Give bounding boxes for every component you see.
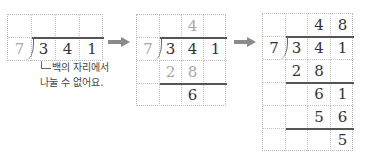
step3-partial-digit: 6 [308, 83, 331, 106]
step3-quotient-digit: 4 [308, 14, 331, 37]
step3-cell [331, 60, 354, 83]
step2-cell [204, 15, 227, 38]
step2-remainder-digit: 6 [182, 84, 204, 106]
right-arrow-icon [108, 37, 130, 47]
step3-cell [286, 83, 308, 106]
step3-cell [286, 14, 308, 37]
step2-cell [204, 61, 227, 84]
right-arrow-icon [234, 37, 256, 47]
step2-cell [137, 84, 160, 106]
step3-cell [308, 129, 331, 151]
annotation-line1: 백의 자리에서 [52, 61, 109, 75]
step3-product-digit: 2 [286, 60, 308, 83]
step1-cell [8, 15, 32, 38]
step2-cell [160, 84, 182, 106]
step2-dividend-digit: 4 [182, 38, 204, 61]
step3-product-digit: 6 [331, 106, 354, 129]
step2-product-digit: 2 [160, 61, 182, 84]
step3-cell [286, 129, 308, 151]
annotation-line2: 나눌 수 없어요. [40, 76, 104, 90]
step1-dividend-digit: 4 [56, 38, 80, 61]
step1-cell [32, 15, 56, 38]
step3-dividend-digit: 1 [331, 37, 354, 60]
division-bar [160, 37, 227, 39]
subtraction-line [160, 83, 227, 85]
subtraction-line [286, 128, 354, 130]
step3-cell [263, 129, 286, 151]
step3-quotient-digit: 8 [331, 14, 354, 37]
step3-dividend-digit: 3 [286, 37, 308, 60]
step1-grid: 7 3 4 1 [7, 14, 103, 61]
step1-cell [56, 15, 80, 38]
step1-cell [80, 15, 104, 38]
step2-cell [204, 84, 227, 106]
step2-cell [137, 61, 160, 84]
step3-product-digit: 5 [308, 106, 331, 129]
step2-dividend-digit: 1 [204, 38, 227, 61]
step3-grid: 4 8 7 3 4 1 2 8 6 1 5 6 5 [262, 13, 353, 151]
annotation-leader-line [41, 61, 51, 69]
step3-product-digit: 8 [308, 60, 331, 83]
step3-cell [263, 106, 286, 129]
step1-dividend-digit: 1 [80, 38, 104, 61]
step2-cell [160, 15, 182, 38]
step3-partial-digit: 1 [331, 83, 354, 106]
step3-remainder-digit: 5 [331, 129, 354, 151]
step3-cell [286, 106, 308, 129]
step2-cell [137, 15, 160, 38]
step3-cell [263, 83, 286, 106]
step1-dividend-digit: 3 [32, 38, 56, 61]
step3-dividend-digit: 4 [308, 37, 331, 60]
step2-grid: 4 7 3 4 1 2 8 6 [136, 14, 226, 106]
division-bar [32, 37, 104, 39]
step2-dividend-digit: 3 [160, 38, 182, 61]
step2-product-digit: 8 [182, 61, 204, 84]
subtraction-line [286, 82, 354, 84]
step2-quotient-digit: 4 [182, 15, 204, 38]
step3-cell [263, 60, 286, 83]
division-bar [286, 36, 354, 38]
step3-cell [263, 14, 286, 37]
